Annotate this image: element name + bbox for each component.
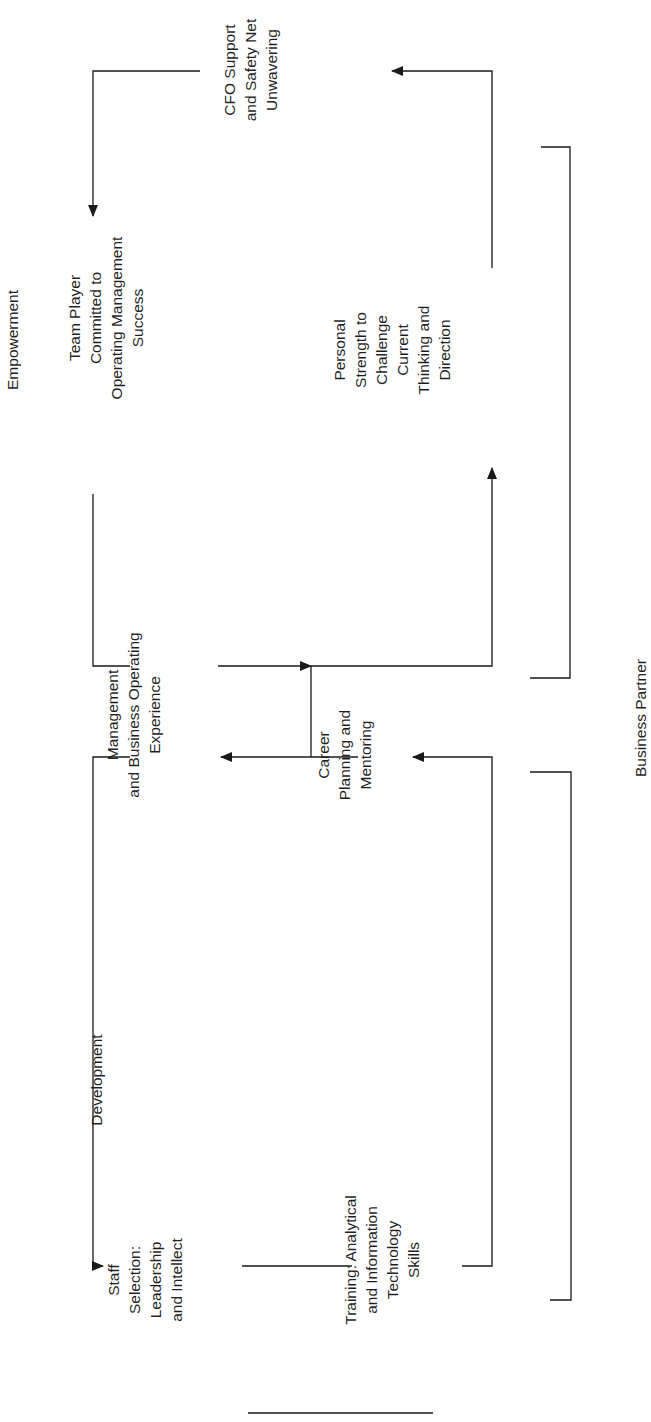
edge-cfo-to-teamplayer <box>93 71 200 216</box>
business-partner-bracket-bottom <box>530 772 571 1300</box>
edge-training-to-career <box>413 757 492 1266</box>
node-staff-selection: Staff Selection: Leadership and Intellec… <box>103 1238 187 1322</box>
business-partner-bracket-top <box>530 147 570 678</box>
section-label-empowerment: Empowerment <box>2 290 23 390</box>
node-training: Training: Analytical and Information Tec… <box>340 1195 424 1325</box>
node-career-planning: Career Planning and Mentoring <box>313 710 376 801</box>
edge-mgmt-to-staff <box>93 757 130 1266</box>
node-personal-strength: Personal Strength to Challenge Current T… <box>329 306 455 395</box>
section-label-development: Development <box>86 1034 107 1125</box>
section-label-business-partner: Business Partner <box>630 659 651 777</box>
edge-personal-to-cfo <box>392 71 492 268</box>
node-management-experience: Management and Business Operating Experi… <box>102 632 165 797</box>
edge-junction-to-personal <box>311 468 492 666</box>
node-team-player: Team Player Committed to Operating Manag… <box>64 237 148 400</box>
node-cfo-support: CFO Support and Safety Net Unwavering <box>219 19 282 122</box>
